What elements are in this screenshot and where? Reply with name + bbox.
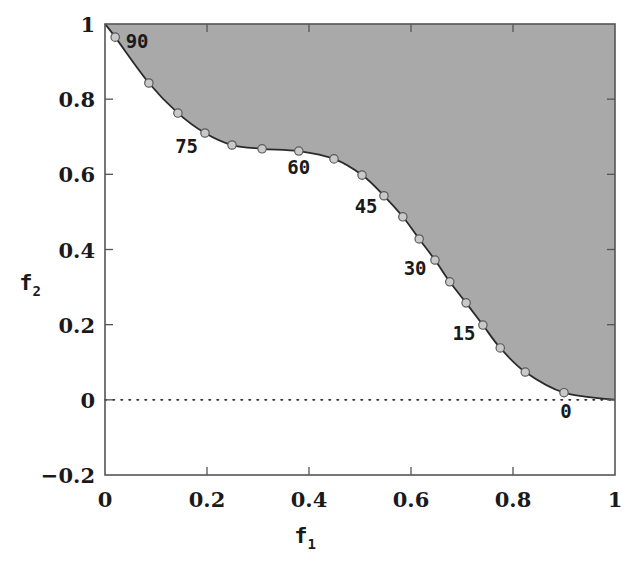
pareto-front-chart: 00.20.40.60.81 −0.200.20.40.60.81 907560… — [0, 0, 639, 573]
y-tick-label: 0.8 — [58, 87, 95, 112]
data-point-marker — [295, 147, 303, 155]
data-point-marker — [446, 278, 454, 286]
x-tick-label: 0 — [98, 487, 113, 512]
y-tick-label: 0.6 — [58, 162, 95, 187]
y-tick-label: 1 — [80, 12, 95, 37]
data-point-marker — [399, 213, 407, 221]
angle-annotation: 75 — [175, 135, 198, 157]
data-point-marker — [521, 368, 529, 376]
data-point-marker — [358, 171, 366, 179]
angle-annotation: 60 — [287, 156, 310, 178]
y-tick-label: 0 — [80, 388, 95, 413]
data-point-marker — [462, 299, 470, 307]
x-tick-label: 0.4 — [291, 487, 328, 512]
angle-annotation: 0 — [560, 400, 571, 422]
data-point-marker — [380, 192, 388, 200]
data-point-marker — [560, 388, 568, 396]
angle-annotation: 15 — [453, 322, 476, 344]
data-point-marker — [496, 344, 504, 352]
data-point-marker — [431, 256, 439, 264]
data-point-marker — [258, 145, 266, 153]
x-tick-label: 1 — [608, 487, 623, 512]
data-point-marker — [111, 33, 119, 41]
data-point-marker — [145, 79, 153, 87]
data-point-marker — [415, 235, 423, 243]
x-tick-label: 0.8 — [495, 487, 532, 512]
data-point-marker — [174, 109, 182, 117]
y-tick-label: 0.4 — [58, 238, 95, 263]
angle-annotation: 90 — [126, 30, 149, 52]
x-tick-label: 0.2 — [189, 487, 226, 512]
angle-annotation: 45 — [355, 195, 378, 217]
angle-annotation: 30 — [404, 257, 427, 279]
y-tick-label: −0.2 — [41, 463, 95, 488]
x-tick-label: 0.6 — [393, 487, 430, 512]
data-point-marker — [330, 155, 338, 163]
data-point-marker — [201, 129, 209, 137]
data-point-marker — [479, 321, 487, 329]
data-point-marker — [228, 141, 236, 149]
y-tick-label: 0.2 — [58, 313, 95, 338]
